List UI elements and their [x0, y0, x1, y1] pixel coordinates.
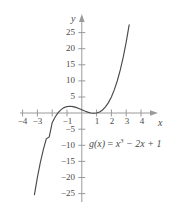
x-axis-label: x: [158, 118, 162, 128]
x-tick-label-2: 2: [107, 117, 117, 126]
x-tick-label-1: 1: [92, 117, 102, 126]
x-tick-label-neg3: −3: [30, 117, 45, 126]
figure-container: 25 20 15 10 5 −5 −10 −15 −20 −25 −4 −3 −…: [0, 0, 192, 208]
x-tick-label-neg4: −4: [15, 117, 30, 126]
y-tick-label-25: 25: [60, 28, 75, 37]
y-tick-label-neg15: −15: [55, 157, 75, 166]
equation-function-name: g(x): [89, 138, 105, 149]
y-axis-label: y: [71, 14, 75, 24]
y-axis: [78, 14, 85, 202]
equation-annotation: g(x) = x3 − 2x + 1: [89, 138, 161, 149]
y-tick-label-10: 10: [60, 76, 75, 85]
y-tick-label-15: 15: [60, 60, 75, 69]
equation-term-2: − 2x: [126, 138, 145, 149]
y-tick-label-neg20: −20: [55, 173, 75, 182]
y-tick-label-20: 20: [60, 44, 75, 53]
x-tick-label-3: 3: [122, 117, 132, 126]
function-graph: [0, 0, 192, 208]
y-tick-label-neg25: −25: [55, 189, 75, 198]
y-tick-label-5: 5: [60, 92, 75, 101]
equation-term-3: + 1: [147, 138, 161, 149]
y-tick-label-neg5: −5: [55, 125, 75, 134]
x-tick-label-neg1: −1: [60, 117, 75, 126]
y-tick-label-neg10: −10: [55, 141, 75, 150]
x-tick-label-4: 4: [137, 117, 147, 126]
